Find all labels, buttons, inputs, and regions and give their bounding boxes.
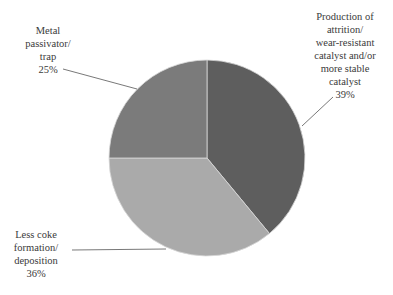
label-coke: Less coke formation/ deposition 36% [4,228,68,280]
label-line: attrition/ [290,23,393,36]
leader-line-coke [72,249,166,250]
label-production: Production of attrition/ wear-resistant … [290,10,393,101]
label-line: Metal [10,24,86,37]
label-line: catalyst and/or [290,49,393,62]
label-percent: 25% [10,63,86,76]
label-line: Production of [290,10,393,23]
label-line: deposition [4,254,68,267]
pie-slices [109,60,305,256]
label-line: Less coke [4,228,68,241]
label-percent: 36% [4,267,68,280]
label-line: passivator/ [10,37,86,50]
label-percent: 39% [290,88,393,101]
label-line: catalyst [290,75,393,88]
leader-line-production [302,97,333,126]
label-line: formation/ [4,241,68,254]
label-line: trap [10,50,86,63]
label-metal: Metal passivator/ trap 25% [10,24,86,76]
pie-slice [109,60,207,158]
label-line: wear-resistant [290,36,393,49]
label-line: more stable [290,62,393,75]
